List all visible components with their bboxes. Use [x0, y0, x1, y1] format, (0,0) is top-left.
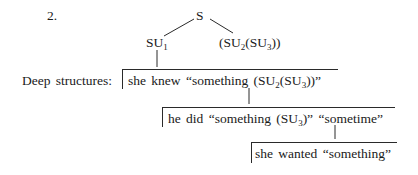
- right-child-close: )): [272, 35, 281, 50]
- example-number: 2.: [47, 9, 57, 23]
- structure-2: he did “something (SU3)” “sometime”: [168, 112, 383, 126]
- structure-1-post: ))”: [306, 73, 321, 88]
- structure-3: she wanted “something”: [255, 147, 391, 161]
- left-child-sub: 1: [163, 42, 168, 52]
- deep-structures-label: Deep structures:: [22, 74, 112, 88]
- structure-2-pre: he did “something (SU: [168, 111, 298, 126]
- right-child-open: (SU: [219, 35, 241, 50]
- structure-1-pre: she knew “something (SU: [128, 73, 275, 88]
- structure-1-mid: (SU: [280, 73, 302, 88]
- left-child-base: SU: [146, 35, 163, 50]
- tree-root: S: [196, 9, 204, 23]
- branch-right: [210, 19, 233, 33]
- structure-1: she knew “something (SU2(SU3))”: [128, 74, 321, 88]
- tree-right-child: (SU2(SU3)): [219, 36, 281, 50]
- branch-left: [164, 19, 194, 36]
- structure-2-post: )” “sometime”: [303, 111, 383, 126]
- right-child-mid: (SU: [245, 35, 267, 50]
- tree-left-child: SU1: [146, 36, 168, 50]
